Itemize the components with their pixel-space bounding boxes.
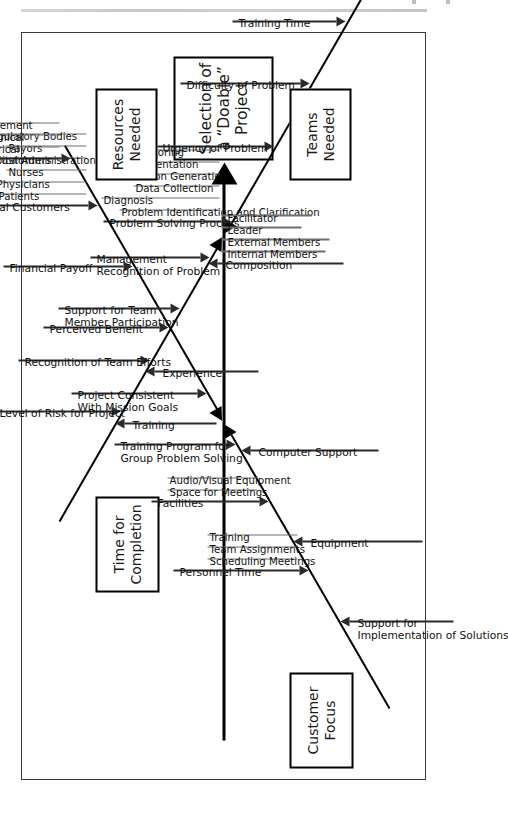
scan-tick-right	[446, 0, 450, 4]
cause-label: Difficulty of Problem	[186, 79, 294, 91]
subcause-label: Clerical	[0, 143, 19, 154]
cause-label: Internal Customers	[0, 154, 51, 166]
subcause-label: Audio/Visual Equipment	[169, 474, 290, 485]
twig-arrowhead	[88, 200, 97, 210]
cause-label: Financial Payoff	[9, 262, 92, 274]
category-box-time-for-completion: Time for Completion	[95, 496, 159, 592]
subcause-label: Data Collection	[135, 182, 213, 193]
cause-label: Level of Risk for Project	[0, 407, 124, 419]
category-box-teams-needed: Teams Needed	[289, 88, 351, 180]
twig-arrowhead	[293, 536, 302, 546]
twig-arrowhead	[115, 418, 124, 428]
twig-arrowhead	[208, 258, 217, 268]
twig-arrowhead	[61, 153, 70, 163]
cause-label: Training	[132, 419, 174, 431]
cause-label: Composition	[225, 259, 292, 271]
subcause-label: Training	[209, 531, 249, 542]
subcause-label: Leader	[227, 224, 262, 235]
cause-label: Urgency of Problem	[162, 142, 267, 154]
cause-label: Computer Support	[258, 446, 357, 458]
cause-label: External Customers	[0, 201, 69, 213]
subcause-label: Management	[0, 119, 32, 130]
cause-label: Training Program for Group Problem Solvi…	[120, 440, 242, 464]
subcause-label: Technical	[0, 131, 24, 142]
cause-label: Equipment	[310, 537, 368, 549]
scan-rule	[21, 9, 427, 12]
twig-arrowhead	[145, 366, 154, 376]
cause-label: Support for Implementation of Solutions	[357, 617, 508, 641]
subcause-label: Team Assignments	[209, 543, 304, 554]
twig-arrowhead	[340, 616, 349, 626]
category-box-customer-focus: Customer Focus	[289, 672, 353, 768]
subcause-label: Physicians	[0, 178, 49, 189]
cause-label: Problem Solving Process	[109, 217, 239, 229]
cause-label: Support for Team Member Participation	[64, 304, 178, 328]
twig-arrowhead	[336, 16, 345, 26]
subcause-label: Facilitator	[227, 212, 277, 223]
twig-arrowhead	[197, 388, 206, 398]
subcause-label: Patients	[0, 190, 39, 201]
fishbone-canvas: Selection of a “Doable” Project Time for…	[21, 32, 426, 780]
cause-label: Training Time	[238, 17, 310, 29]
cause-label: Management Recognition of Problem	[96, 253, 220, 277]
cause-label: Experience	[162, 367, 222, 379]
subcause-label: Nurses	[8, 166, 43, 177]
cause-label: Facilities	[157, 497, 203, 509]
twig-arrowhead	[300, 78, 309, 88]
cause-label: Personnel Time	[179, 566, 261, 578]
twig-arrowhead	[241, 445, 250, 455]
subcause-label: External Members	[227, 236, 320, 247]
subcause-label: Scheduling Meetings	[209, 555, 315, 566]
category-box-resources-needed: Resources Needed	[95, 88, 157, 180]
figure-frame: Selection of a “Doable” Project Time for…	[21, 32, 426, 780]
scan-tick-left	[412, 0, 416, 4]
subcause-label: Diagnosis	[103, 194, 153, 205]
subcause-label: Internal Members	[227, 248, 317, 259]
subcause-label: Space for Meetings	[169, 486, 267, 497]
